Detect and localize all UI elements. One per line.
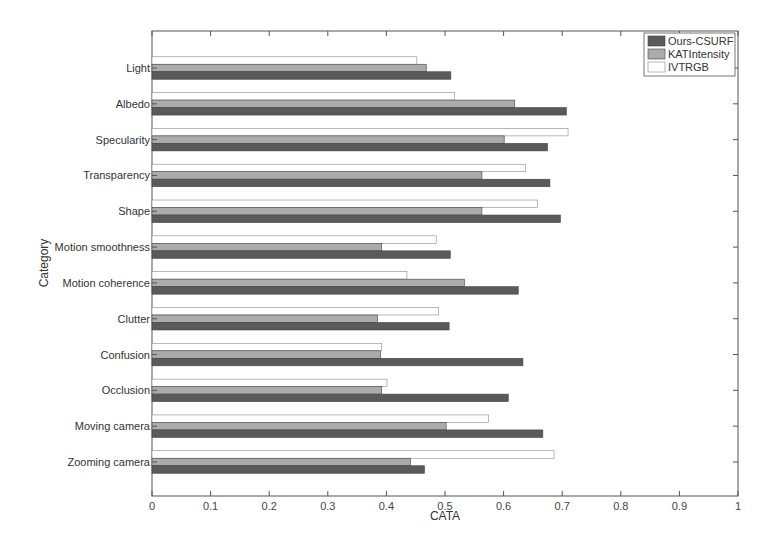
x-tick-label: 0.8 (613, 500, 628, 512)
bar-ivtrgb (152, 236, 436, 244)
legend-label: KATIntensity (668, 48, 730, 60)
bar-katintensity (152, 422, 446, 430)
category-label: Occlusion (102, 384, 150, 396)
category-label: Transparency (83, 169, 150, 181)
legend-swatch (648, 36, 665, 46)
x-tick-label: 1 (735, 500, 741, 512)
bar-katintensity (152, 172, 482, 180)
category-label: Moving camera (75, 420, 151, 432)
bar-katintensity (152, 100, 515, 108)
bar-ivtrgb (152, 93, 454, 101)
bar-ours-csurf (152, 287, 518, 295)
bar-katintensity (152, 208, 482, 216)
bar-ours-csurf (152, 108, 566, 116)
bar-ivtrgb (152, 379, 387, 387)
bar-ivtrgb (152, 343, 382, 351)
bar-katintensity (152, 136, 504, 144)
bar-katintensity (152, 279, 464, 287)
bar-chart: 00.10.20.30.40.50.60.70.80.91 LightAlbed… (0, 0, 776, 539)
legend-label: Ours-CSURF (668, 35, 734, 47)
bar-ours-csurf (152, 251, 450, 259)
bar-ours-csurf (152, 358, 523, 366)
x-tick-label: 0.7 (555, 500, 570, 512)
legend: Ours-CSURFKATIntensityIVTRGB (644, 33, 735, 76)
bar-katintensity (152, 64, 426, 72)
x-tick-label: 0.1 (203, 500, 218, 512)
bar-ours-csurf (152, 143, 548, 151)
category-label: Zooming camera (67, 456, 150, 468)
category-label: Light (126, 62, 150, 74)
bar-ours-csurf (152, 394, 508, 402)
y-axis-title: Category (37, 239, 51, 288)
x-tick-label: 0.3 (320, 500, 335, 512)
bar-ours-csurf (152, 466, 424, 474)
bar-ivtrgb (152, 272, 407, 280)
bar-ours-csurf (152, 215, 560, 223)
bar-ivtrgb (152, 200, 538, 208)
category-label: Motion coherence (63, 277, 150, 289)
bar-ivtrgb (152, 307, 439, 315)
legend-swatch (648, 62, 665, 72)
bar-katintensity (152, 243, 382, 251)
category-label: Albedo (116, 98, 150, 110)
bar-ours-csurf (152, 72, 451, 80)
x-tick-label: 0.2 (262, 500, 277, 512)
bar-ivtrgb (152, 128, 568, 136)
bar-ours-csurf (152, 322, 449, 330)
bar-ours-csurf (152, 430, 543, 438)
category-label: Confusion (100, 349, 150, 361)
category-label: Clutter (118, 313, 151, 325)
bar-ours-csurf (152, 179, 550, 187)
category-label: Shape (118, 205, 150, 217)
bar-ivtrgb (152, 164, 525, 172)
bar-katintensity (152, 315, 378, 323)
legend-label: IVTRGB (668, 61, 709, 73)
legend-swatch (648, 49, 665, 59)
x-tick-label: 0 (149, 500, 155, 512)
x-tick-label: 0.4 (379, 500, 394, 512)
x-tick-label: 0.6 (496, 500, 511, 512)
bar-ivtrgb (152, 415, 488, 423)
bar-katintensity (152, 458, 410, 466)
bar-ivtrgb (152, 451, 554, 459)
x-axis-title: CATA (430, 509, 460, 523)
category-label: Motion smoothness (55, 241, 151, 253)
bar-katintensity (152, 351, 381, 359)
category-label: Specularity (96, 134, 151, 146)
bar-katintensity (152, 387, 382, 395)
x-tick-label: 0.9 (672, 500, 687, 512)
bar-ivtrgb (152, 57, 417, 65)
